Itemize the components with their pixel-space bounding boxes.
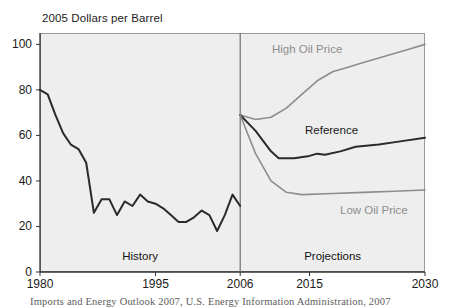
chart-plot-area: 02040608010019801995200620152030HistoryP… xyxy=(0,0,449,308)
x-tick-label: 1995 xyxy=(142,277,169,291)
x-tick-label: 2030 xyxy=(412,277,439,291)
y-tick-label: 80 xyxy=(19,83,33,97)
low-oil-price-label: Low Oil Price xyxy=(340,204,408,216)
figure-caption: Imports and Energy Outlook 2007, U.S. En… xyxy=(30,296,391,307)
y-tick-label: 60 xyxy=(19,128,33,142)
reference-label: Reference xyxy=(305,124,358,136)
history-label: History xyxy=(122,250,158,262)
y-tick-label: 100 xyxy=(12,37,32,51)
plot-background xyxy=(40,33,425,272)
y-tick-label: 20 xyxy=(19,219,33,233)
high-oil-price-label: High Oil Price xyxy=(272,43,342,55)
x-tick-label: 1980 xyxy=(27,277,54,291)
oil-price-figure: 2005 Dollars per Barrel 0204060801001980… xyxy=(0,0,449,308)
x-tick-label: 2015 xyxy=(296,277,323,291)
x-tick-label: 2006 xyxy=(227,277,254,291)
y-tick-label: 40 xyxy=(19,174,33,188)
projections-label: Projections xyxy=(304,250,361,262)
